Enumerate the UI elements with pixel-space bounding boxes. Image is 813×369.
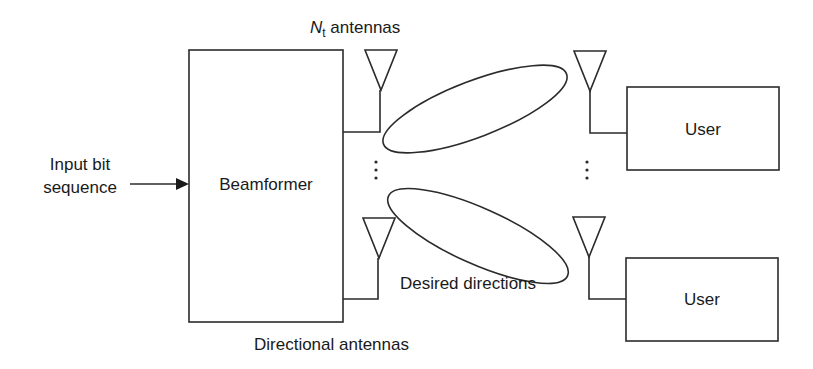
beamformer-label: Beamformer: [219, 175, 313, 194]
antenna-icon: [574, 51, 606, 91]
beam-lobe-upper: [373, 48, 576, 171]
rx-feed-bottom: [589, 257, 626, 299]
input-label-line1: Input bit: [50, 155, 111, 174]
antenna-icon: [573, 217, 605, 257]
ellipsis-dot: [374, 160, 377, 163]
ellipsis-dot: [374, 168, 377, 171]
tx-feed-bottom: [343, 258, 378, 299]
user-label: User: [685, 120, 721, 139]
ellipsis-dot: [585, 168, 588, 171]
tx-feed-top: [343, 90, 380, 132]
nt-antennas-label: Nt antennas: [310, 18, 400, 40]
ellipsis-dot: [585, 176, 588, 179]
beamforming-diagram: Nt antennas Input bit sequence Beamforme…: [0, 0, 813, 369]
ellipsis-dot: [585, 160, 588, 163]
directional-antennas-label: Directional antennas: [254, 335, 409, 354]
input-label-line2: sequence: [43, 178, 117, 197]
user-label: User: [684, 290, 720, 309]
antenna-icon: [365, 50, 397, 90]
rx-feed-top: [590, 91, 627, 133]
ellipsis-dot: [374, 176, 377, 179]
antenna-icon: [363, 218, 395, 258]
arrow-head-icon: [176, 178, 189, 190]
desired-directions-label: Desired directions: [400, 274, 536, 293]
